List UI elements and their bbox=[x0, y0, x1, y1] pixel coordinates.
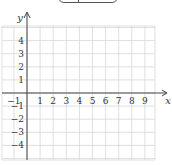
y-tick-label: 1 bbox=[18, 75, 24, 85]
x-tick-label: 3 bbox=[63, 96, 69, 106]
x-tick-label: 7 bbox=[116, 96, 122, 106]
y-tick-label: −3 bbox=[11, 127, 25, 137]
y-axis-label: y bbox=[16, 12, 23, 23]
x-tick-label: 4 bbox=[77, 96, 83, 106]
x-tick-label: 1 bbox=[37, 96, 43, 106]
y-tick-label: −4 bbox=[11, 140, 25, 150]
x-tick-label: 6 bbox=[103, 96, 109, 106]
x-tick-label: 2 bbox=[50, 96, 56, 106]
x-tick-label: 9 bbox=[142, 96, 148, 106]
coordinate-plane: xy−11234567894321−1−2−3−4 bbox=[0, 0, 172, 165]
x-tick-label: 5 bbox=[90, 96, 96, 106]
tick-labels: xy−11234567894321−1−2−3−4 bbox=[7, 12, 171, 150]
y-tick-label: 3 bbox=[18, 49, 24, 59]
y-tick-label: −2 bbox=[11, 114, 24, 124]
y-tick-label: 4 bbox=[18, 36, 24, 46]
x-axis-label: x bbox=[165, 95, 171, 106]
axes bbox=[2, 12, 167, 160]
x-tick-label: 8 bbox=[129, 96, 135, 106]
y-tick-label: −1 bbox=[11, 101, 24, 111]
y-tick-label: 2 bbox=[18, 62, 24, 72]
